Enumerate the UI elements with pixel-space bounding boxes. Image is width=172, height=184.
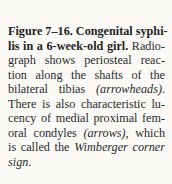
caption-title-cont: lis in a 6-week-old girl.	[8, 39, 128, 53]
caption-title: Congenital syphi-	[73, 24, 168, 38]
caption-text: is called the	[8, 140, 74, 154]
caption-text: .	[162, 82, 165, 96]
wimberger-sign-term-cont: sign	[8, 155, 28, 169]
wimberger-sign-term: Wimberger corner	[74, 140, 165, 154]
caption-line-10: sign.	[8, 155, 165, 170]
caption-text: bilateral tibias	[8, 82, 96, 96]
arrows-reference: (arrows)	[83, 126, 125, 140]
caption-line-5: bilateral tibias (arrowheads).	[8, 82, 165, 97]
caption-line-9: is called the Wimberger corner	[8, 140, 165, 155]
caption-text: Radio-	[128, 39, 165, 53]
caption-line-7: cency of medial proximal fem-	[8, 111, 165, 126]
caption-line-1: Figure 7–16. Congenital syphi-	[8, 24, 165, 39]
caption-line-2: lis in a 6-week-old girl. Radio-	[8, 39, 165, 54]
arrowheads-reference: (arrowheads)	[96, 82, 162, 96]
caption-text: , which	[126, 126, 165, 140]
caption-line-4: tion along the shafts of the	[8, 68, 165, 83]
figure-label: Figure 7–16.	[8, 24, 73, 38]
figure-caption: Figure 7–16. Congenital syphi- lis in a …	[8, 24, 165, 169]
caption-text: .	[28, 155, 31, 169]
caption-line-3: graph shows periosteal reac-	[8, 53, 165, 68]
caption-line-6: There is also characteristic lu-	[8, 97, 165, 112]
caption-line-8: oral condyles (arrows), which	[8, 126, 165, 141]
caption-text: oral condyles	[8, 126, 83, 140]
